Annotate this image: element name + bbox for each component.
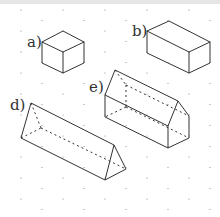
shape-a-cube	[42, 31, 84, 73]
dot-grid	[20, 9, 210, 210]
label-a: a)	[27, 35, 42, 50]
shape-b-cuboid	[147, 21, 210, 73]
shape-d-triangular-prism	[21, 103, 126, 180]
label-d: d)	[10, 98, 25, 113]
label-e: e)	[89, 80, 104, 95]
label-b: b)	[132, 24, 147, 39]
